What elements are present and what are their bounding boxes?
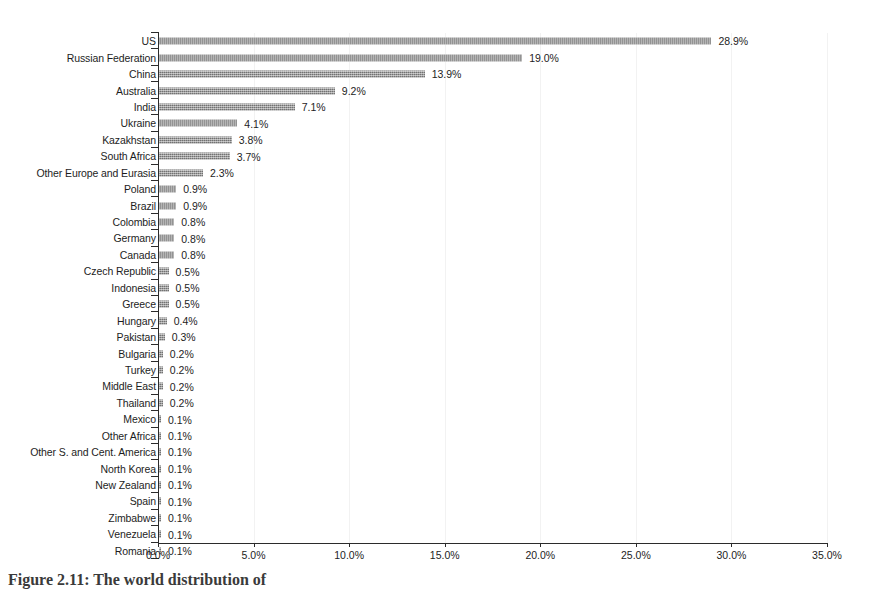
bar — [159, 514, 161, 521]
bar — [159, 169, 203, 176]
bar-row: Canada0.8% — [0, 247, 869, 263]
y-axis-tick — [151, 131, 159, 132]
category-label: Greece — [122, 299, 156, 310]
bar-row: Greece0.5% — [0, 296, 869, 312]
bar — [159, 350, 163, 357]
category-label: Hungary — [117, 315, 156, 326]
x-axis-tick-mark — [158, 543, 159, 547]
bar — [159, 153, 230, 160]
bar-with-value: 0.1% — [159, 498, 192, 505]
bar-with-value: 4.1% — [159, 120, 268, 127]
x-axis-tick-label: 30.0% — [717, 550, 747, 561]
bar — [159, 284, 169, 291]
bar-value-label: 0.5% — [176, 283, 200, 294]
y-axis-tick — [151, 443, 159, 444]
bar-rows: US28.9%Russian Federation19.0%China13.9%… — [0, 33, 869, 559]
category-label: Ukraine — [121, 118, 156, 129]
y-axis-tick — [151, 459, 159, 460]
category-label: Czech Republic — [84, 266, 156, 277]
bar-row: US28.9% — [0, 33, 869, 49]
bar — [159, 334, 165, 341]
category-label: Turkey — [125, 365, 156, 376]
x-axis-tick-label: 0.0% — [146, 550, 170, 561]
bar — [159, 383, 163, 390]
category-label: China — [129, 69, 156, 80]
bar-row: China13.9% — [0, 66, 869, 82]
bar-value-label: 0.1% — [168, 430, 192, 441]
x-axis-tick-mark — [254, 543, 255, 547]
bar-with-value: 0.1% — [159, 465, 192, 472]
y-axis-tick — [151, 394, 159, 395]
bar-value-label: 0.2% — [170, 348, 194, 359]
x-axis-tick-label: 35.0% — [812, 550, 842, 561]
bar-row: Czech Republic0.5% — [0, 263, 869, 279]
y-axis-tick — [151, 164, 159, 165]
bar-with-value: 0.1% — [159, 449, 192, 456]
y-axis-tick — [151, 147, 159, 148]
y-axis-tick — [151, 262, 159, 263]
bar-value-label: 3.8% — [239, 135, 263, 146]
bar-row: Pakistan0.3% — [0, 329, 869, 345]
bar-value-label: 0.8% — [181, 250, 205, 261]
bar-with-value: 0.1% — [159, 482, 192, 489]
y-axis-tick — [151, 525, 159, 526]
bar-with-value: 19.0% — [159, 54, 559, 61]
category-label: Bulgaria — [118, 348, 156, 359]
bar — [159, 317, 167, 324]
bar-value-label: 2.3% — [210, 167, 234, 178]
bar — [159, 235, 174, 242]
bar-value-label: 0.9% — [183, 184, 207, 195]
bar — [159, 186, 176, 193]
bar — [159, 432, 161, 439]
bar — [159, 416, 161, 423]
bar-row: Venezuela0.1% — [0, 526, 869, 542]
bar-value-label: 0.1% — [168, 463, 192, 474]
bar-row: Bulgaria0.2% — [0, 345, 869, 361]
category-label: North Korea — [100, 463, 156, 474]
x-axis-ticks: 0.0%5.0%10.0%15.0%20.0%25.0%30.0%35.0% — [0, 543, 869, 573]
bar-with-value: 0.5% — [159, 284, 199, 291]
bar-value-label: 0.4% — [174, 315, 198, 326]
category-label: Other S. and Cent. America — [30, 447, 156, 458]
y-axis-tick — [151, 509, 159, 510]
bar-row: India7.1% — [0, 99, 869, 115]
category-label: Venezuela — [108, 529, 156, 540]
bar — [159, 482, 161, 489]
category-label: Australia — [116, 85, 156, 96]
y-axis-tick — [151, 65, 159, 66]
category-label: Zimbabwe — [108, 513, 156, 524]
bar-row: Zimbabwe0.1% — [0, 510, 869, 526]
bar-value-label: 0.1% — [168, 447, 192, 458]
y-axis-tick — [151, 295, 159, 296]
y-axis-tick — [151, 377, 159, 378]
y-axis-tick — [151, 427, 159, 428]
bar-with-value: 0.2% — [159, 383, 194, 390]
bar-value-label: 4.1% — [244, 118, 268, 129]
x-axis-tick-label: 25.0% — [621, 550, 651, 561]
bar-row: Germany0.8% — [0, 230, 869, 246]
bar — [159, 202, 176, 209]
category-label: Russian Federation — [67, 52, 156, 63]
bar — [159, 87, 335, 94]
x-axis-tick-mark — [827, 543, 828, 547]
bar — [159, 136, 232, 143]
category-label: Canada — [120, 250, 156, 261]
bar-with-value: 28.9% — [159, 38, 748, 45]
x-axis-tick-mark — [731, 543, 732, 547]
bar-value-label: 0.1% — [168, 414, 192, 425]
bar-row: Spain0.1% — [0, 493, 869, 509]
bar — [159, 54, 522, 61]
x-axis-tick-label: 20.0% — [525, 550, 555, 561]
bar-row: Russian Federation19.0% — [0, 49, 869, 65]
bar-row: Brazil0.9% — [0, 197, 869, 213]
bar-with-value: 2.3% — [159, 169, 234, 176]
bar — [159, 103, 295, 110]
x-axis-tick-mark — [636, 543, 637, 547]
bar-with-value: 0.1% — [159, 531, 192, 538]
bar-value-label: 0.3% — [172, 332, 196, 343]
bar — [159, 498, 161, 505]
bar-value-label: 9.2% — [342, 85, 366, 96]
category-label: Germany — [114, 233, 156, 244]
bar-value-label: 0.8% — [181, 233, 205, 244]
